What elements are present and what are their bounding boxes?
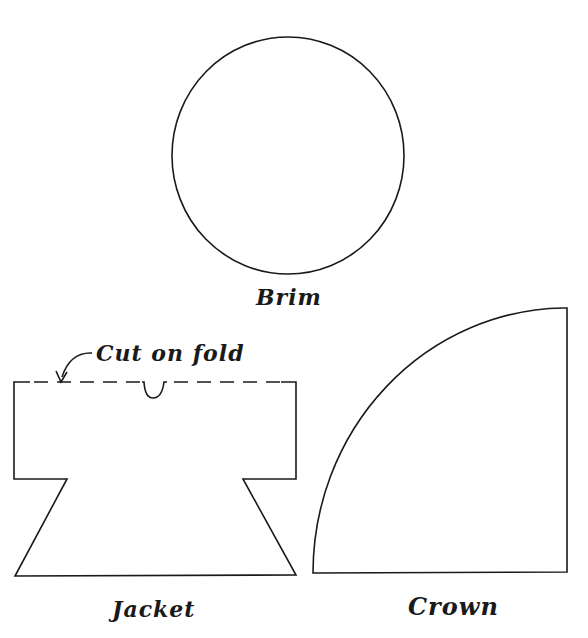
jacket-label: Jacket	[112, 596, 195, 622]
crown-label: Crown	[408, 592, 499, 621]
jacket-outline	[14, 382, 296, 576]
crown-outline	[313, 308, 567, 573]
pattern-diagram	[0, 0, 588, 638]
brim-label: Brim	[256, 284, 322, 310]
cut-on-fold-label: Cut on fold	[96, 340, 245, 366]
neck-notch	[142, 382, 167, 398]
brim-circle	[172, 37, 404, 274]
